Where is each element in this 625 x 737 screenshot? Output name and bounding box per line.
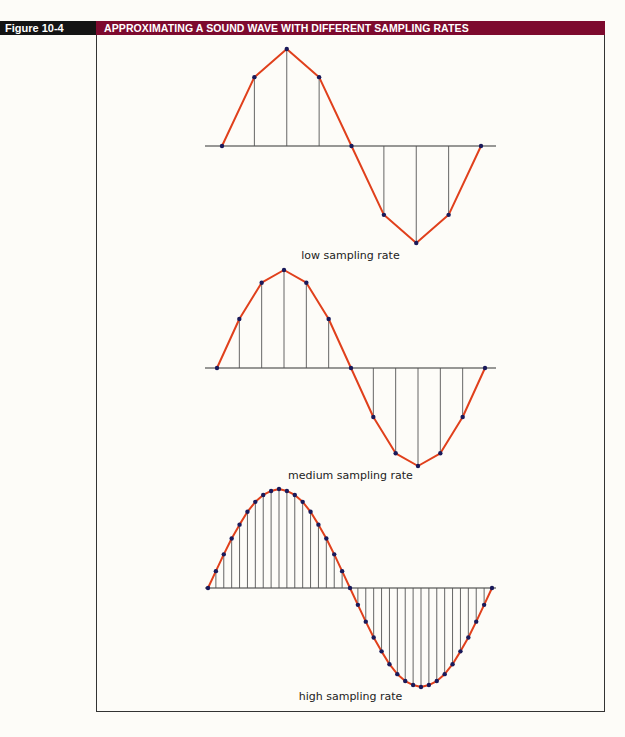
medium-sampling-rate-plot (205, 268, 496, 468)
medium-sampling-rate-caption: medium sampling rate (96, 469, 605, 482)
sample-point (237, 317, 241, 321)
sample-point (285, 489, 289, 493)
sample-point (414, 241, 418, 245)
sample-point (438, 451, 442, 455)
sample-point (483, 366, 487, 370)
sample-point (419, 685, 423, 689)
sample-point (206, 586, 210, 590)
sample-point (293, 493, 297, 497)
sample-point (371, 415, 375, 419)
sample-point (220, 144, 224, 148)
sample-point (324, 536, 328, 540)
sample-point (229, 536, 233, 540)
high-sampling-rate-plot (205, 487, 496, 689)
sample-point (259, 281, 263, 285)
sample-point (364, 619, 368, 623)
sample-point (349, 144, 353, 148)
high-sampling-rate-caption: high sampling rate (96, 690, 605, 703)
sample-point (253, 500, 257, 504)
sample-point (474, 619, 478, 623)
sample-point (332, 552, 336, 556)
sample-point (261, 493, 265, 497)
sample-point (214, 569, 218, 573)
sample-point (482, 603, 486, 607)
sample-point (282, 268, 286, 272)
sample-point (395, 672, 399, 676)
sample-point (450, 662, 454, 666)
sample-point (300, 500, 304, 504)
sample-point (215, 366, 219, 370)
sample-point (411, 683, 415, 687)
sample-point (387, 662, 391, 666)
sample-point (348, 586, 352, 590)
low-sampling-rate-caption: low sampling rate (96, 249, 605, 262)
sample-point (269, 489, 273, 493)
sample-point (356, 603, 360, 607)
sample-point (340, 569, 344, 573)
sample-point (379, 649, 383, 653)
sample-point (479, 144, 483, 148)
sample-point (237, 522, 241, 526)
sample-point (222, 552, 226, 556)
sample-point (382, 213, 386, 217)
sample-point (403, 679, 407, 683)
sample-point (446, 213, 450, 217)
sample-point (304, 281, 308, 285)
sample-point (252, 75, 256, 79)
sample-point (427, 683, 431, 687)
sample-point (277, 487, 281, 491)
sample-point (442, 672, 446, 676)
sample-point (349, 366, 353, 370)
sample-point (285, 47, 289, 51)
sampling-rate-diagram (0, 0, 625, 737)
sample-point (371, 635, 375, 639)
low-sampling-rate-plot (205, 47, 496, 245)
sample-point (316, 522, 320, 526)
sample-point (317, 75, 321, 79)
sample-point (326, 317, 330, 321)
sample-point (416, 464, 420, 468)
sample-point (460, 415, 464, 419)
sample-point (458, 649, 462, 653)
sample-point (490, 586, 494, 590)
sample-point (393, 451, 397, 455)
sample-point (308, 510, 312, 514)
sample-point (435, 679, 439, 683)
sample-point (245, 510, 249, 514)
sample-point (466, 635, 470, 639)
